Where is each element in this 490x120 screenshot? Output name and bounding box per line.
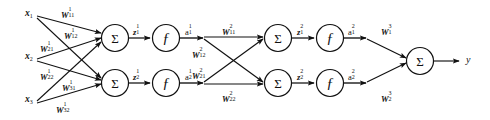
weight-label-w1-12: W112 — [64, 29, 78, 40]
fn-node-2-2-glyph: ƒ — [326, 75, 334, 91]
sum-node-output-glyph: Σ — [416, 54, 424, 69]
weight-label-w2-12: W212 — [192, 48, 206, 59]
sum-node-1-2-glyph: Σ — [111, 76, 119, 91]
sum-node-2-1-glyph: Σ — [274, 31, 282, 46]
layer1-fn-nodes: ƒ ƒ — [153, 25, 180, 97]
preactivation-label-z2-1: z21 — [297, 25, 303, 36]
weight-label-w2-11: W211 — [222, 25, 235, 36]
activation-label-a2-2: a22 — [348, 70, 355, 81]
output-label-y: y — [466, 55, 470, 65]
input-label-x2: x2 — [25, 52, 33, 62]
layer2-weight-edges — [204, 37, 263, 84]
weight-label-w3-1: W31 — [381, 25, 392, 36]
activation-label-a1-2: a12 — [185, 70, 192, 81]
fn-node-1-1-glyph: ƒ — [162, 30, 170, 46]
layer2-fn-nodes: ƒ ƒ — [317, 25, 344, 97]
weight-label-w1-32: W132 — [56, 103, 70, 114]
preactivation-label-z2-2: z22 — [297, 70, 303, 81]
weight-label-w3-2: W32 — [381, 92, 392, 103]
fn-node-1-2-glyph: ƒ — [162, 75, 170, 91]
input-label-x3: x3 — [25, 95, 33, 105]
layer3-weight-edges — [367, 39, 406, 82]
activation-label-a1-1: a11 — [185, 25, 192, 36]
weight-label-w2-21: W221 — [192, 69, 206, 80]
output-sum-node: Σ — [407, 48, 434, 75]
weight-label-w1-22: W122 — [40, 70, 54, 81]
layer2-sum-nodes: Σ Σ — [265, 25, 292, 97]
weight-label-w1-31: W131 — [62, 81, 76, 92]
layer1-sum-nodes: Σ Σ — [102, 25, 129, 97]
weight-label-w2-22: W222 — [222, 92, 236, 103]
activation-label-a2-1: a21 — [348, 25, 355, 36]
sum-node-1-1-glyph: Σ — [111, 31, 119, 46]
weight-label-w1-21: W121 — [40, 42, 54, 53]
weight-label-w1-11: W111 — [61, 8, 74, 19]
fn-node-2-1-glyph: ƒ — [326, 30, 334, 46]
neural-network-diagram: Σ Σ ƒ ƒ Σ Σ — [0, 0, 490, 120]
sum-node-2-2-glyph: Σ — [274, 76, 282, 91]
preactivation-label-z1-1: z11 — [133, 25, 139, 36]
preactivation-label-z1-2: z12 — [133, 70, 139, 81]
input-label-x1: x1 — [25, 9, 33, 19]
